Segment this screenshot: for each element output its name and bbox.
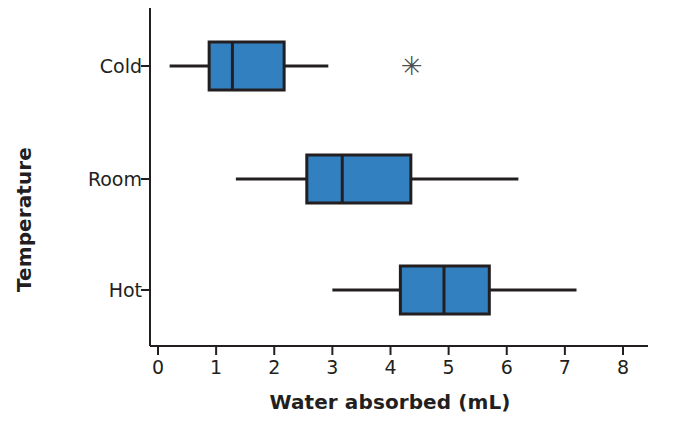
box-hot xyxy=(332,266,576,314)
box-rect xyxy=(209,42,284,90)
box-cold: ✳ xyxy=(170,42,423,90)
outlier-marker: ✳ xyxy=(401,51,423,81)
box-room xyxy=(236,155,518,203)
box-rect xyxy=(307,155,411,203)
plot-area: ✳ xyxy=(0,0,673,439)
box-plot-chart: Temperature Water absorbed (mL) ColdRoom… xyxy=(0,0,673,439)
box-series: ✳ xyxy=(170,42,577,314)
